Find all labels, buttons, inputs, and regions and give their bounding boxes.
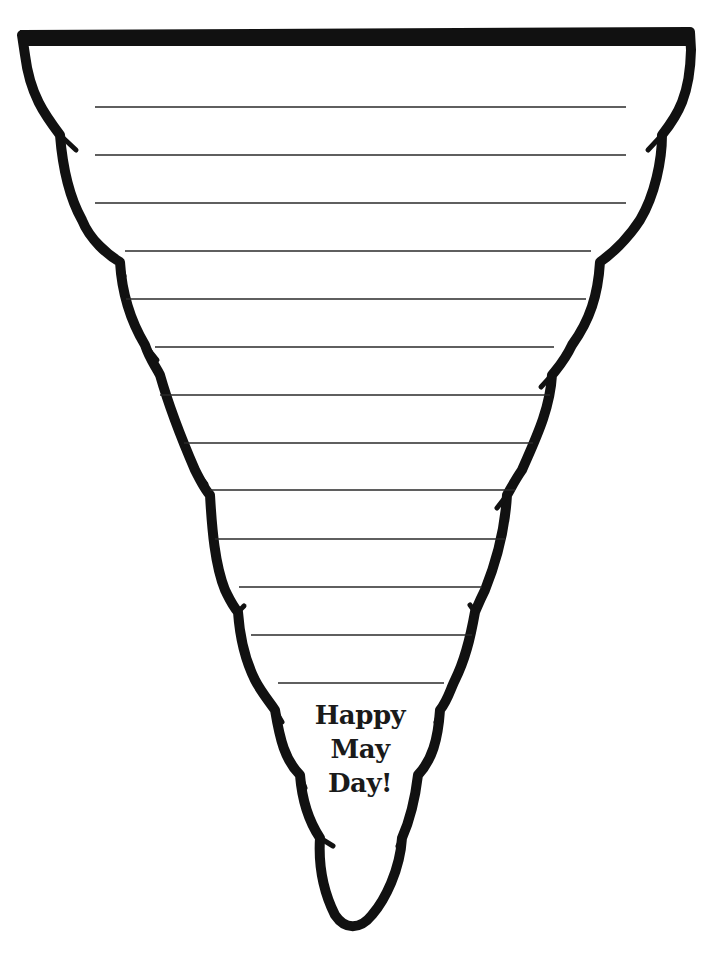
greeting-line-1: Happy <box>280 698 440 732</box>
writing-template-page: Happy May Day! <box>0 0 721 956</box>
greeting-line-2: May <box>280 732 440 766</box>
top-bar <box>20 30 692 46</box>
ruled-lines <box>95 107 626 683</box>
greeting-text: Happy May Day! <box>280 698 440 800</box>
greeting-line-3: Day! <box>280 766 440 800</box>
cone-outline <box>0 0 721 956</box>
